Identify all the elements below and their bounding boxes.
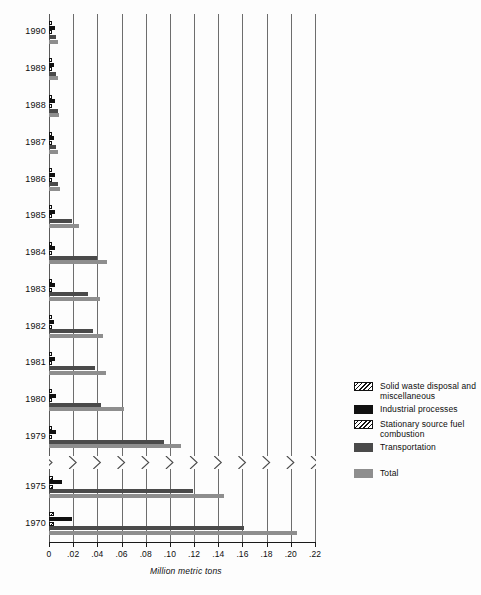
legend-item: Industrial processes: [354, 404, 480, 416]
bar-transport: [49, 109, 58, 113]
bar-total: [49, 334, 103, 338]
year-label: 1982: [2, 321, 46, 331]
x-tick: [170, 542, 171, 547]
bar-total: [49, 224, 79, 228]
bar-industrial: [49, 357, 55, 361]
bar-total: [49, 407, 124, 411]
x-tick: [242, 542, 243, 547]
bar-transport: [49, 292, 88, 296]
x-tick: [146, 542, 147, 547]
bar-solidwaste: [49, 58, 52, 62]
bar-stationary: [49, 30, 52, 34]
year-group: 1985: [49, 198, 315, 235]
x-axis-line: [49, 542, 316, 543]
year-label: 1979: [2, 431, 46, 441]
legend-swatch-icon: [354, 405, 373, 414]
bar-total: [49, 150, 58, 154]
bar-total: [49, 260, 107, 264]
bar-solidwaste: [49, 315, 52, 319]
bar-industrial: [49, 136, 54, 140]
bar-solidwaste: [49, 205, 52, 209]
bar-solidwaste: [49, 242, 52, 246]
bar-total: [49, 531, 297, 535]
year-group: 1979: [49, 419, 315, 456]
legend-item: Stationary source fuel combustion: [354, 419, 480, 439]
year-group: 1987: [49, 124, 315, 161]
bar-stationary: [49, 67, 52, 71]
bar-industrial: [49, 394, 56, 398]
year-label: 1984: [2, 247, 46, 257]
year-label: 1990: [2, 26, 46, 36]
legend-label: Total: [380, 468, 480, 478]
bar-solidwaste: [49, 389, 52, 393]
bar-stationary: [49, 141, 52, 145]
bar-transport: [49, 440, 164, 444]
bar-stationary: [49, 104, 52, 108]
legend-label: Industrial processes: [380, 404, 480, 414]
year-label: 1981: [2, 357, 46, 367]
year-label: 1975: [2, 481, 46, 491]
x-tick: [315, 542, 316, 547]
year-label: 1988: [2, 100, 46, 110]
bar-solidwaste: [49, 95, 52, 99]
year-group: 1989: [49, 51, 315, 88]
bar-stationary: [49, 435, 52, 439]
bar-stationary: [49, 288, 52, 292]
bar-solidwaste: [49, 132, 52, 136]
bar-stationary: [49, 485, 53, 489]
bar-solidwaste: [49, 168, 52, 172]
bar-transport: [49, 219, 72, 223]
legend-swatch-icon: [354, 443, 373, 452]
legend-label: Stationary source fuel combustion: [380, 419, 480, 439]
bar-transport: [49, 256, 97, 260]
bar-total: [49, 371, 106, 375]
x-tick: [267, 542, 268, 547]
bar-stationary: [49, 361, 52, 365]
year-label: 1986: [2, 174, 46, 184]
year-group: 1981: [49, 345, 315, 382]
x-tick: [218, 542, 219, 547]
year-group: 1984: [49, 235, 315, 272]
x-tick: [122, 542, 123, 547]
bar-transport: [49, 526, 244, 530]
bar-stationary: [49, 522, 54, 526]
year-group: 1980: [49, 382, 315, 419]
x-tick: [97, 542, 98, 547]
bar-total: [49, 297, 100, 301]
bar-industrial: [49, 320, 54, 324]
year-group: 1988: [49, 88, 315, 125]
bar-total: [49, 40, 58, 44]
chart-legend: Solid waste disposal and miscellaneousIn…: [354, 381, 480, 483]
bar-stationary: [49, 398, 52, 402]
axis-break-marker: [49, 456, 316, 469]
bar-transport: [49, 182, 58, 186]
bar-stationary: [49, 214, 52, 218]
x-tick: [291, 542, 292, 547]
year-label: 1989: [2, 63, 46, 73]
legend-item: Total: [354, 468, 480, 480]
bar-total: [49, 494, 224, 498]
bar-stationary: [49, 251, 52, 255]
bar-industrial: [49, 99, 55, 103]
legend-label: Solid waste disposal and miscellaneous: [380, 381, 480, 401]
bar-industrial: [49, 283, 55, 287]
year-group: 1990: [49, 14, 315, 51]
year-group: 1970: [49, 505, 315, 542]
year-label: 1983: [2, 284, 46, 294]
bar-total: [49, 76, 58, 80]
bar-industrial: [49, 246, 55, 250]
year-label: 1970: [2, 518, 46, 528]
year-label: 1987: [2, 137, 46, 147]
bar-industrial: [49, 173, 55, 177]
bar-solidwaste: [49, 279, 52, 283]
bar-transport: [49, 489, 193, 493]
bar-industrial: [49, 210, 55, 214]
x-tick: [194, 542, 195, 547]
bar-solidwaste: [49, 476, 53, 480]
year-label: 1980: [2, 394, 46, 404]
bar-industrial: [49, 517, 72, 521]
x-tick: [73, 542, 74, 547]
legend-label: Transportation: [380, 442, 480, 452]
year-label: 1985: [2, 210, 46, 220]
bar-solidwaste: [49, 512, 54, 516]
